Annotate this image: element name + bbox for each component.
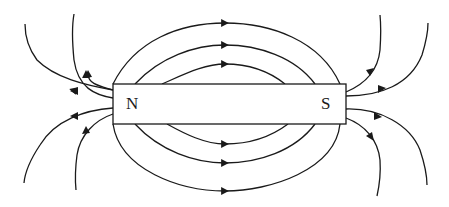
bar-magnet <box>113 84 346 124</box>
top-field-arcs <box>113 23 340 84</box>
bottom-middle-arc <box>135 124 225 163</box>
left-line-4 <box>75 114 113 190</box>
top-inner-arc <box>162 64 225 84</box>
field-lines-svg <box>0 0 449 207</box>
right-field-lines <box>346 15 428 196</box>
bottom-outer-arc <box>113 124 225 191</box>
left-line-3 <box>24 108 113 183</box>
bottom-field-arcs <box>113 124 340 191</box>
bar-magnet-diagram: N S <box>0 0 449 207</box>
right-line-3 <box>346 109 427 185</box>
right-line-4 <box>346 118 380 196</box>
south-pole-label: S <box>321 95 330 112</box>
right-arrowheads <box>366 68 386 141</box>
top-middle-arc <box>135 45 225 84</box>
top-outer-arc <box>113 23 225 84</box>
north-pole-label: N <box>126 95 138 112</box>
left-field-lines <box>24 14 113 190</box>
bottom-inner-arc <box>167 124 225 144</box>
right-line-1 <box>346 15 381 92</box>
